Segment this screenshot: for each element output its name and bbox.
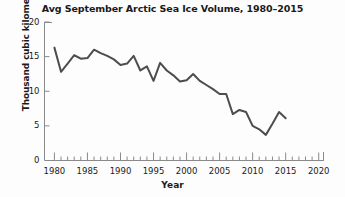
y-tick-label: 10 bbox=[18, 86, 40, 96]
y-tick-label: 20 bbox=[18, 17, 40, 27]
axis-lines bbox=[45, 22, 325, 161]
x-axis-label: Year bbox=[0, 180, 345, 190]
y-tick-label: 15 bbox=[18, 51, 40, 61]
x-tick-label: 2020 bbox=[299, 166, 339, 176]
y-tick-label: 0 bbox=[18, 155, 40, 165]
chart-figure: Avg September Arctic Sea Ice Volume, 198… bbox=[0, 0, 345, 197]
data-line-sea-ice-volume bbox=[54, 48, 285, 135]
y-axis-ticks bbox=[45, 22, 50, 161]
y-tick-label: 5 bbox=[18, 120, 40, 130]
